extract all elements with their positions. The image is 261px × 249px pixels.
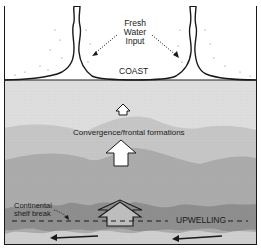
coastline xyxy=(5,6,74,80)
upwelling-label: UPWELLING xyxy=(174,216,228,225)
fresh-water-line3: Input xyxy=(118,37,152,46)
coast-label: COAST xyxy=(119,67,148,76)
convergence-label: Convergence/frontal formations xyxy=(73,128,185,137)
shelf-label-line2: shelf break xyxy=(14,210,52,218)
fresh-water-label: Fresh Water Input xyxy=(118,19,152,46)
continental-shelf-label: Continental shelf break xyxy=(14,202,52,218)
